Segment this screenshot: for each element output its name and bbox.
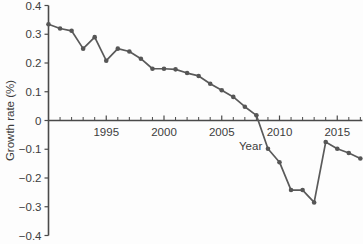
data-point (243, 104, 248, 109)
data-point (139, 56, 144, 61)
data-series-growth-rate (46, 22, 362, 205)
x-tick-label: 1995 (93, 126, 119, 138)
chart-canvas: 0.40.30.20.10−0.1−0.2−0.3−0.4 1995200020… (0, 0, 363, 244)
data-point (92, 35, 97, 40)
data-point (323, 140, 328, 145)
data-point (219, 88, 224, 93)
x-tick-label: 2015 (324, 126, 350, 138)
data-point (208, 81, 213, 86)
y-tick-label: −0.4 (19, 230, 42, 242)
x-tick-label: 2005 (209, 126, 235, 138)
y-tick-label: 0.4 (26, 0, 43, 12)
x-tick-label: 2000 (151, 126, 177, 138)
data-point (347, 151, 352, 156)
data-point (277, 160, 282, 165)
y-tick-label: 0 (35, 115, 41, 127)
data-point (289, 188, 294, 193)
data-point (81, 46, 86, 51)
y-tick-label: −0.2 (19, 172, 42, 184)
data-point (254, 113, 259, 118)
data-point (312, 200, 317, 205)
data-point (127, 49, 132, 54)
data-point (185, 71, 190, 76)
x-tick-label: 2010 (267, 126, 293, 138)
y-tick-label: −0.3 (19, 201, 42, 213)
data-point (196, 74, 201, 79)
growth-rate-line-chart: 0.40.30.20.10−0.1−0.2−0.3−0.4 1995200020… (0, 0, 363, 244)
data-point (46, 22, 51, 27)
data-point (266, 146, 271, 151)
data-point (335, 146, 340, 151)
series-line (49, 24, 361, 202)
data-point (104, 58, 109, 63)
y-tick-label: 0.3 (26, 28, 42, 40)
data-point (173, 67, 178, 72)
y-tick-label: 0.2 (26, 57, 42, 69)
x-axis: 19952000200520102015 (49, 116, 363, 138)
data-point (58, 26, 63, 31)
data-point (358, 156, 363, 161)
y-axis-title: Growth rate (%) (4, 80, 16, 161)
data-point (231, 95, 236, 100)
data-point (69, 29, 74, 34)
y-axis: 0.40.30.20.10−0.1−0.2−0.3−0.4 (19, 0, 49, 242)
data-point (150, 66, 155, 71)
data-point (300, 188, 305, 193)
data-point (162, 66, 167, 71)
data-point (116, 46, 121, 51)
y-tick-label: −0.1 (19, 143, 42, 155)
x-axis-title: Year (239, 140, 262, 152)
y-tick-label: 0.1 (26, 86, 42, 98)
